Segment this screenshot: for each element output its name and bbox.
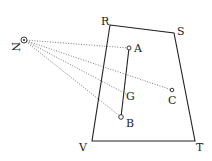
diagram-canvas: N R S T V A G B C <box>0 0 212 161</box>
label-t: T <box>196 141 204 154</box>
quadrilateral-rstv <box>92 25 195 141</box>
label-v: V <box>78 141 88 154</box>
label-c: C <box>168 94 176 107</box>
ray-n-to-c <box>24 40 172 90</box>
segment-ab <box>121 48 129 117</box>
ray-n-to-g <box>24 40 126 94</box>
point-b <box>119 115 124 120</box>
ray-n-to-a <box>24 40 129 48</box>
label-a: A <box>133 42 143 55</box>
viewpoint-n-center <box>23 39 25 41</box>
label-b: B <box>126 117 134 130</box>
ray-n-to-b <box>24 40 121 117</box>
point-c <box>170 88 174 92</box>
label-r: R <box>101 15 110 28</box>
label-s: S <box>177 25 185 38</box>
label-g: G <box>126 90 135 103</box>
label-n: N <box>9 42 22 52</box>
point-a <box>127 46 131 50</box>
